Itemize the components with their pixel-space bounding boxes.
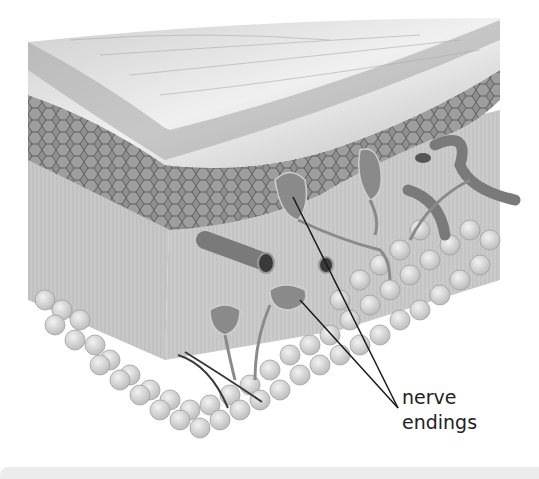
nerve-endings-label: nerve endings — [402, 385, 477, 435]
label-line-2: endings — [402, 410, 477, 435]
label-line-1: nerve — [402, 385, 477, 410]
bottom-strip — [0, 467, 539, 479]
